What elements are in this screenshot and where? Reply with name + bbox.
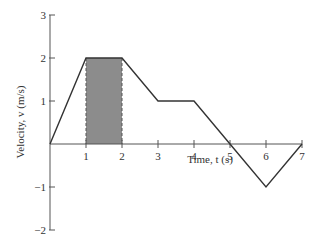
x-tick-label: 1 bbox=[83, 150, 89, 162]
y-tick-label: 3 bbox=[41, 9, 47, 21]
velocity-time-chart: 1234567321−1−2 Time, t (s) Velocity, v (… bbox=[0, 0, 322, 248]
y-axis-label: Velocity, v (m/s) bbox=[14, 85, 27, 158]
shaded-area-1-to-2s bbox=[86, 58, 122, 144]
x-tick-label: 6 bbox=[263, 150, 269, 162]
y-tick-label: −2 bbox=[34, 224, 46, 236]
y-tick-label: −1 bbox=[34, 181, 46, 193]
x-tick-label: 2 bbox=[119, 150, 125, 162]
y-tick-label: 1 bbox=[41, 95, 47, 107]
x-axis-label: Time, t (s) bbox=[187, 153, 233, 166]
x-tick-label: 3 bbox=[155, 150, 161, 162]
shaded-rect bbox=[86, 58, 122, 144]
tick-labels: 1234567321−1−2 bbox=[34, 9, 305, 236]
y-tick-label: 2 bbox=[41, 52, 47, 64]
x-tick-label: 7 bbox=[299, 150, 305, 162]
